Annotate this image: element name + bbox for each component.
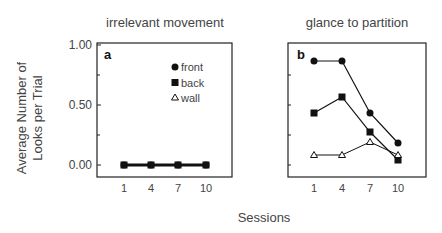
title-b: glance to partition: [306, 15, 409, 30]
svg-text:7: 7: [175, 182, 181, 194]
svg-text:1.00: 1.00: [69, 38, 93, 52]
svg-text:7: 7: [367, 182, 373, 194]
panel-label-a: a: [104, 47, 112, 62]
legend-triangle-icon: [172, 94, 179, 100]
svg-text:0.00: 0.00: [69, 158, 93, 172]
svg-text:4: 4: [148, 182, 154, 194]
svg-text:0.50: 0.50: [69, 98, 93, 112]
svg-text:front: front: [181, 61, 203, 73]
panel-label-b: b: [297, 47, 305, 62]
svg-text:Average Number of: Average Number of: [14, 61, 29, 174]
y-axis-label: Average Number of Looks per Trial: [14, 61, 45, 174]
x-axis-label: Sessions: [238, 210, 291, 225]
svg-text:back: back: [181, 77, 205, 89]
legend-square-icon: [172, 79, 179, 86]
title-a: irrelevant movement: [106, 15, 224, 30]
svg-text:10: 10: [200, 182, 212, 194]
svg-text:4: 4: [339, 182, 345, 194]
svg-text:Looks per Trial: Looks per Trial: [30, 75, 45, 160]
panel-a: 1.00 0.50 0.00 1 4 7 10 a front back wal…: [69, 38, 232, 194]
svg-text:wall: wall: [180, 92, 200, 104]
svg-text:1: 1: [121, 182, 127, 194]
legend-circle-icon: [172, 64, 179, 71]
chart-svg: irrelevant movement glance to partition …: [0, 0, 442, 233]
svg-text:1: 1: [311, 182, 317, 194]
panel-b: 1 4 7 10 b: [288, 43, 426, 194]
svg-text:10: 10: [392, 182, 404, 194]
figure: irrelevant movement glance to partition …: [0, 0, 442, 233]
